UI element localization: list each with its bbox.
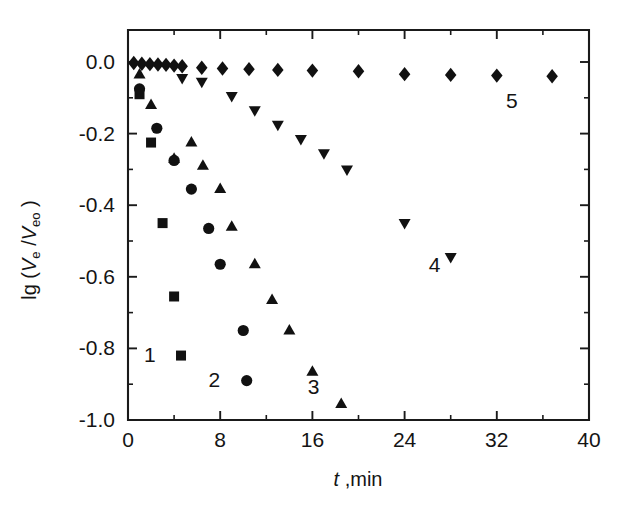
data-point xyxy=(215,259,226,270)
ylabel-close: ) xyxy=(18,200,40,212)
x-tick-label: 8 xyxy=(214,428,226,451)
series-label-5: 5 xyxy=(506,89,518,112)
y-tick-label: -0.8 xyxy=(79,336,115,359)
ylabel-sub2: eo xyxy=(28,212,43,226)
x-axis-title: t ,min xyxy=(334,468,383,490)
y-tick-label: -1.0 xyxy=(79,408,115,431)
data-point xyxy=(151,123,162,134)
data-point xyxy=(186,183,197,194)
x-tick-label: 16 xyxy=(301,428,324,451)
y-tick-label: -0.4 xyxy=(79,193,116,216)
data-point xyxy=(158,218,168,228)
svg-text:t ,min: t ,min xyxy=(334,468,383,490)
x-tick-label: 40 xyxy=(577,428,600,451)
ylabel-lead: lg ( xyxy=(18,272,40,300)
figure-container: 08162432400.0-0.2-0.4-0.6-0.8-1.0 12345 … xyxy=(0,0,627,511)
y-tick-label: -0.6 xyxy=(79,265,115,288)
series-label-2: 2 xyxy=(209,368,221,391)
data-point xyxy=(176,351,186,361)
data-point xyxy=(146,138,156,148)
x-tick-label: 24 xyxy=(393,428,417,451)
y-tick-label: -0.2 xyxy=(79,122,115,145)
series-label-1: 1 xyxy=(144,343,156,366)
data-point xyxy=(241,375,252,386)
x-tick-label: 0 xyxy=(122,428,134,451)
y-tick-label: 0.0 xyxy=(86,50,115,73)
ylabel-mid: / xyxy=(18,240,40,252)
data-point xyxy=(169,291,179,301)
x-tick-label: 32 xyxy=(485,428,508,451)
series-label-4: 4 xyxy=(429,253,441,276)
series-label-3: 3 xyxy=(308,375,320,398)
scatter-plot: 08162432400.0-0.2-0.4-0.6-0.8-1.0 12345 … xyxy=(0,0,627,511)
ylabel-sub1: e xyxy=(28,251,43,258)
data-point xyxy=(203,223,214,234)
xlabel-rest: ,min xyxy=(339,468,382,490)
data-point xyxy=(238,325,249,336)
data-point xyxy=(134,83,145,94)
